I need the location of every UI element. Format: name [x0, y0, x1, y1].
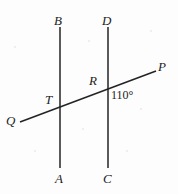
geometry-figure: B D A C P Q T R 110°: [0, 0, 178, 194]
label-t: T: [45, 93, 52, 106]
angle-label-110: 110°: [111, 89, 133, 101]
label-p: P: [158, 60, 166, 73]
label-a: A: [55, 172, 63, 185]
label-q: Q: [6, 114, 15, 127]
label-d: D: [102, 14, 111, 27]
label-b: B: [54, 14, 62, 27]
line-qp-transversal: [20, 71, 156, 122]
label-r: R: [89, 74, 97, 87]
label-c: C: [103, 172, 112, 185]
figure-canvas: [0, 0, 178, 194]
